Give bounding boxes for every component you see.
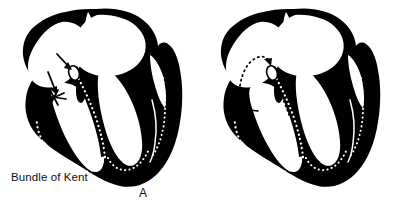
- panel-b: B: [198, 0, 396, 212]
- heart-cross-section-a: [23, 8, 182, 186]
- heart-conduction-figure: A Bundle of Kent: [0, 0, 397, 212]
- panel-a-letter: A: [139, 186, 147, 200]
- bundle-of-kent-label: Bundle of Kent: [11, 171, 88, 183]
- heart-cross-section-b: [221, 8, 380, 186]
- retrograde-shaft: [243, 125, 244, 134]
- panel-a: A Bundle of Kent: [0, 0, 198, 212]
